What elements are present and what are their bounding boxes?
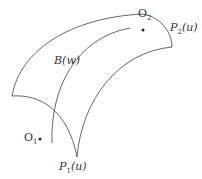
o1-label: O1 <box>24 132 38 146</box>
p1-boundary-curve <box>12 96 77 157</box>
o2-point <box>142 29 145 32</box>
b-label: B(w) <box>54 55 80 66</box>
top-boundary-curve <box>12 14 172 96</box>
p2-boundary-curve <box>77 47 172 157</box>
p2-label: P2(u) <box>170 22 198 36</box>
p1-label: P1(u) <box>59 161 87 175</box>
b-curve <box>52 28 130 143</box>
o2-label: O2 <box>138 8 152 22</box>
o1-point <box>39 138 42 141</box>
